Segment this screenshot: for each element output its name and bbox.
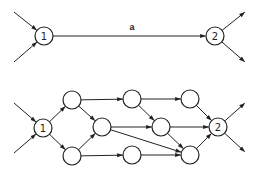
bottom-arrow-7: [81, 155, 123, 156]
node-circle: [123, 146, 141, 164]
top-node-t1: 1: [35, 27, 53, 45]
bottom-arrow-10: [138, 105, 154, 120]
node-circle: [152, 118, 170, 136]
edge-label-a: a: [129, 22, 135, 32]
node-circle: [181, 146, 199, 164]
node-circle: [123, 90, 141, 108]
bottom-arrow-6: [81, 99, 123, 100]
bottom-arrow-9: [111, 130, 181, 152]
expanded-network-diagram: 12: [14, 90, 245, 165]
node-circle: [181, 90, 199, 108]
top-arrow-0: [14, 12, 37, 30]
bottom-arrow-4: [79, 106, 95, 121]
top-arrow-1: [14, 42, 37, 62]
node-label: 2: [215, 122, 221, 133]
node-circle: [63, 91, 81, 109]
bottom-arrow-3: [49, 134, 65, 149]
node-label: 1: [41, 31, 47, 42]
bottom-arrow-2: [49, 107, 65, 122]
bottom-arrow-14: [167, 133, 183, 148]
node-circle: [93, 118, 111, 136]
network-diagram: a 12 12: [0, 0, 258, 174]
node-label: 2: [212, 31, 218, 42]
single-activity-diagram: a 12: [14, 12, 245, 62]
bottom-node-n1: [63, 91, 81, 109]
top-arrow-4: [222, 42, 245, 62]
bottom-arrow-1: [14, 134, 36, 153]
bottom-node-n3: [93, 118, 111, 136]
node-circle: [63, 147, 81, 165]
bottom-arrow-5: [78, 134, 95, 150]
bottom-node-b1: 1: [34, 119, 52, 137]
node-label: 1: [40, 123, 46, 134]
bottom-node-n8: [181, 146, 199, 164]
bottom-node-n5: [123, 146, 141, 164]
bottom-arrow-18: [225, 133, 245, 152]
bottom-arrow-17: [225, 103, 245, 121]
bottom-node-n2: [63, 147, 81, 165]
bottom-arrow-16: [196, 134, 211, 149]
bottom-arrow-0: [14, 103, 36, 122]
top-arrow-3: [222, 12, 245, 30]
bottom-arrow-15: [196, 105, 211, 120]
bottom-node-n6: [152, 118, 170, 136]
top-node-t2: 2: [206, 27, 224, 45]
bottom-node-n4: [123, 90, 141, 108]
bottom-node-b2: 2: [209, 118, 227, 136]
bottom-node-n7: [181, 90, 199, 108]
